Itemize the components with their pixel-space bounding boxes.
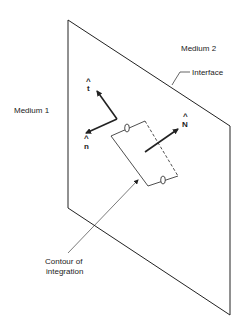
n-vector-arrow	[86, 119, 117, 133]
N-vector-label: N	[182, 120, 188, 129]
medium-2-label: Medium 2	[181, 44, 217, 53]
contour-crossing-bottom	[161, 176, 166, 184]
t-vector-arrow	[97, 91, 117, 119]
contour-leader-line	[68, 180, 138, 253]
contour-label-line1: Contour of	[45, 257, 83, 266]
contour-label-line2: integration	[46, 267, 83, 276]
contour-edge-left	[111, 136, 148, 186]
interface-label: Interface	[192, 68, 224, 77]
interface-plane	[68, 20, 230, 315]
n-vector-label: n	[84, 142, 89, 151]
t-vector-label: t	[87, 84, 90, 93]
interface-leader-line	[172, 72, 190, 85]
contour-crossing-top	[125, 124, 130, 132]
medium-1-label: Medium 1	[14, 106, 50, 115]
interface-diagram: Medium 1 Medium 2 Interface ^ t ^ n ^ N …	[0, 0, 243, 329]
